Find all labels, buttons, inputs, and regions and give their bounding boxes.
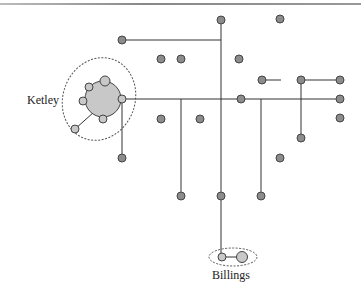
node: [196, 115, 204, 123]
node: [217, 16, 225, 24]
node: [177, 192, 185, 200]
node: [297, 76, 305, 84]
node: [118, 36, 126, 44]
node: [235, 55, 243, 63]
billings-label: Billings: [212, 268, 250, 283]
ketley-label: Ketley: [27, 93, 59, 108]
node: [258, 76, 266, 84]
node: [336, 95, 344, 103]
node: [157, 55, 165, 63]
node: [257, 192, 265, 200]
node: [118, 154, 126, 162]
network-diagram: [0, 0, 361, 290]
node: [276, 15, 284, 23]
node: [336, 76, 344, 84]
network-nodes: [118, 15, 344, 200]
node: [177, 55, 185, 63]
node: [297, 134, 305, 142]
node: [237, 95, 245, 103]
node: [157, 115, 165, 123]
node: [276, 154, 284, 162]
node: [336, 114, 344, 122]
node: [217, 192, 225, 200]
